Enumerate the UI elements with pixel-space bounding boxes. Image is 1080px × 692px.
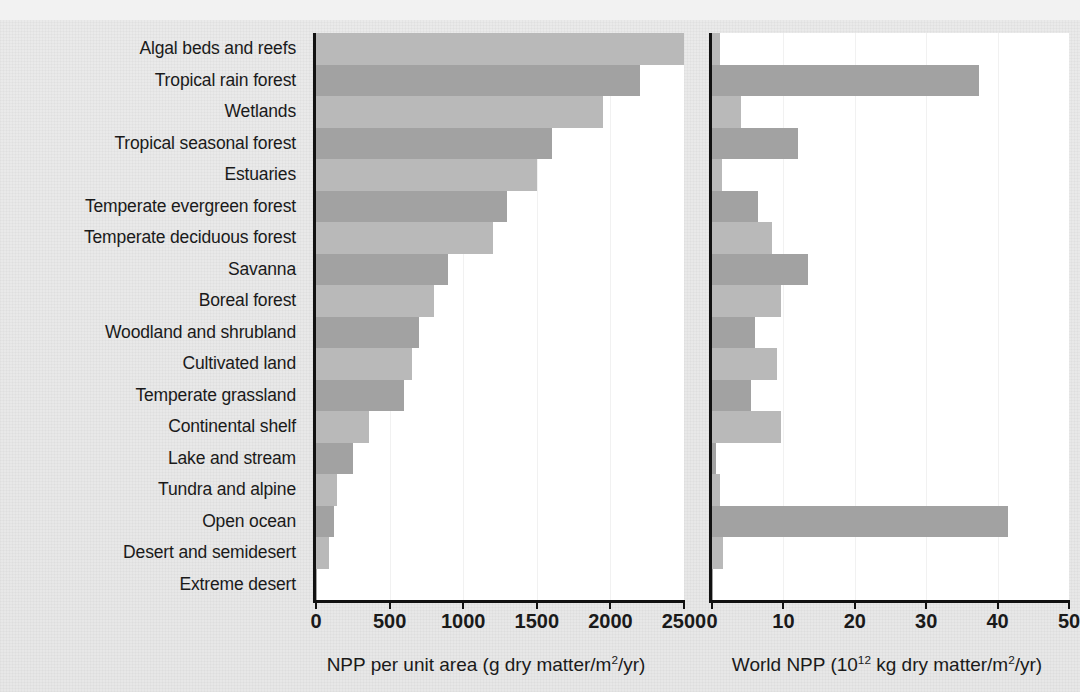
axis-tick-label: 500 [373, 610, 406, 633]
axis-tick-label: 2000 [588, 610, 633, 633]
category-label: Desert and semidesert [0, 537, 296, 569]
bar [712, 348, 777, 380]
bar [712, 474, 720, 506]
category-label: Continental shelf [0, 411, 296, 443]
x-axis-right: 01020304050 [712, 600, 1069, 609]
axis-tick-label: 1500 [515, 610, 560, 633]
chart-panel-world-npp: 01020304050 World NPP (1012 kg dry matte… [709, 33, 1069, 603]
category-label: Extreme desert [0, 569, 296, 601]
bar [316, 348, 412, 380]
figure-top-margin [0, 0, 1080, 20]
category-label: Estuaries [0, 159, 296, 191]
axis-tick-label: 0 [310, 610, 321, 633]
bar [316, 254, 448, 286]
bar [712, 128, 798, 160]
bar [316, 128, 552, 160]
axis-tick-label: 40 [986, 610, 1008, 633]
bar [712, 411, 781, 443]
bar [712, 33, 720, 65]
bar [316, 474, 337, 506]
x-axis-left: 05001000150020002500 [316, 600, 684, 609]
axis-tick-label: 2500 [662, 610, 707, 633]
bar [316, 380, 404, 412]
chart-panel-npp-per-unit-area: 05001000150020002500 NPP per unit area (… [313, 33, 684, 603]
axis-tick [609, 600, 611, 609]
bar [316, 285, 434, 317]
category-label: Tropical seasonal forest [0, 128, 296, 160]
bar [712, 443, 716, 475]
bar [712, 65, 979, 97]
bar [316, 96, 603, 128]
category-label-column: Algal beds and reefsTropical rain forest… [0, 33, 306, 600]
category-label: Tropical rain forest [0, 65, 296, 97]
axis-tick [854, 600, 856, 609]
category-label: Temperate deciduous forest [0, 222, 296, 254]
axis-title-text: World NPP (10 [732, 654, 858, 675]
axis-tick [315, 600, 317, 609]
bar [316, 33, 684, 65]
bar [712, 96, 741, 128]
bar [712, 537, 723, 569]
bar [712, 380, 751, 412]
category-label: Tundra and alpine [0, 474, 296, 506]
category-label: Temperate grassland [0, 380, 296, 412]
bar [316, 317, 419, 349]
bar [712, 159, 722, 191]
bar [316, 65, 640, 97]
bar [712, 222, 772, 254]
x-axis-title-left: NPP per unit area (g dry matter/m2/yr) [256, 653, 716, 676]
axis-tick [925, 600, 927, 609]
plot-area-left [316, 33, 684, 600]
axis-tick [536, 600, 538, 609]
category-label: Algal beds and reefs [0, 33, 296, 65]
category-label: Cultivated land [0, 348, 296, 380]
category-label: Savanna [0, 254, 296, 286]
bar [316, 411, 369, 443]
axis-tick-label: 20 [844, 610, 866, 633]
axis-tick-label: 30 [915, 610, 937, 633]
axis-tick [711, 600, 713, 609]
category-label: Open ocean [0, 506, 296, 538]
bar [316, 191, 507, 223]
axis-title-text: kg dry matter/m [871, 654, 1008, 675]
axis-tick-label: 50 [1058, 610, 1080, 633]
axis-title-superscript: 12 [858, 653, 871, 666]
category-label: Woodland and shrubland [0, 317, 296, 349]
axis-tick [683, 600, 685, 609]
figure-root: Algal beds and reefsTropical rain forest… [0, 0, 1080, 692]
bar [712, 285, 781, 317]
gridline [610, 33, 611, 600]
bar [316, 159, 537, 191]
axis-tick-label: 10 [772, 610, 794, 633]
plot-area-right [712, 33, 1069, 600]
axis-tick [1068, 600, 1070, 609]
category-label: Temperate evergreen forest [0, 191, 296, 223]
axis-tick [462, 600, 464, 609]
category-label: Boreal forest [0, 285, 296, 317]
axis-tick [782, 600, 784, 609]
axis-tick [997, 600, 999, 609]
category-label: Wetlands [0, 96, 296, 128]
bar [712, 254, 808, 286]
axis-title-text: /yr) [618, 654, 645, 675]
bar [712, 317, 755, 349]
bar [712, 506, 1008, 538]
axis-tick [389, 600, 391, 609]
category-label: Lake and stream [0, 443, 296, 475]
bar [316, 537, 329, 569]
bar [712, 191, 758, 223]
axis-title-text: /yr) [1015, 654, 1042, 675]
bar [316, 222, 493, 254]
bar [316, 506, 334, 538]
axis-tick-label: 1000 [441, 610, 486, 633]
bar [316, 443, 353, 475]
x-axis-title-right: World NPP (1012 kg dry matter/m2/yr) [667, 653, 1080, 676]
axis-tick-label: 0 [706, 610, 717, 633]
axis-title-text: NPP per unit area (g dry matter/m [327, 654, 612, 675]
